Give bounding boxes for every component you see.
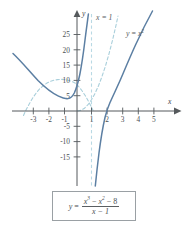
equation-fraction: x3 − x2 − 8 x − 1 <box>82 196 120 216</box>
y-tick-label-20: 20 <box>63 46 71 55</box>
x-tick-label-1: 1 <box>90 115 94 124</box>
equation-denominator: x − 1 <box>90 207 111 216</box>
equation-numerator: x3 − x2 − 8 <box>82 196 120 207</box>
x-tick-label-4: 4 <box>136 115 140 124</box>
equation-caption-inner: y = x3 − x2 − 8 x − 1 <box>53 192 135 220</box>
x-axis-label: x <box>167 97 172 106</box>
annotation-asymptote-text: x = 1 <box>95 13 113 22</box>
annotation-parabola-equals: = <box>131 29 136 38</box>
y-tick-label-neg15: -15 <box>60 153 70 162</box>
svg-text:y=x2: y=x2 <box>125 28 144 38</box>
x-tick-label-3: 3 <box>121 115 125 124</box>
y-axis-label: y <box>81 9 86 18</box>
equation: y = x3 − x2 − 8 x − 1 <box>69 196 120 216</box>
x-tick-label-neg3: -3 <box>30 115 36 124</box>
parabola-dashed-center <box>77 85 93 111</box>
y-tick-label-15: 15 <box>63 61 71 70</box>
annotation-parabola-exponent: 2 <box>141 28 144 34</box>
annotation-parabola-lhs: y <box>125 29 130 38</box>
y-tick-label-25: 25 <box>63 30 71 39</box>
y-axis-arrow <box>74 10 81 17</box>
x-tick-label-5: 5 <box>152 115 156 124</box>
y-tick-label-neg10: -10 <box>60 137 70 146</box>
num-minus2: − 8 <box>105 196 118 205</box>
y-tick-label-10: 10 <box>63 76 71 85</box>
y-tick-label-neg5: -5 <box>64 122 70 131</box>
num-minus1: − <box>90 196 99 205</box>
equation-equals: = <box>74 202 79 211</box>
annotation-parabola: y=x2 <box>125 28 144 38</box>
annotation-vertical-asymptote: x = 1 <box>95 13 113 22</box>
x-axis-arrow <box>174 108 182 115</box>
figure-container: -3 -2 -1 1 2 3 4 5 25 20 15 10 5 -5 -10 … <box>0 0 187 231</box>
x-tick-label-neg2: -2 <box>46 115 52 124</box>
equation-caption-box: y = x3 − x2 − 8 x − 1 <box>52 191 136 221</box>
curve-right-branch <box>95 11 152 186</box>
equation-lhs: y <box>69 202 73 211</box>
